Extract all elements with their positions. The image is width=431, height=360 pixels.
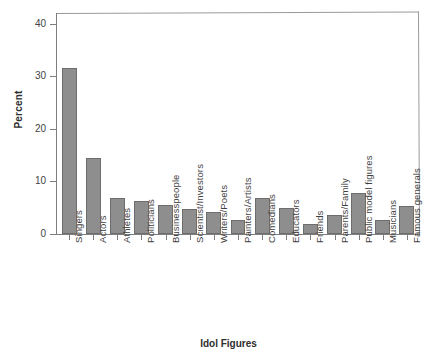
y-tick-20: 20 [50,129,56,130]
x-tick [310,235,311,240]
x-tick [359,235,360,240]
x-tick [117,235,118,240]
x-tick [190,235,191,240]
y-tick-0: 0 [50,234,56,235]
x-tick [238,235,239,240]
x-tick-label-musicians: Musicians [387,200,398,243]
x-tick [214,235,215,240]
x-tick-label-parents-family: Parents/Family [339,178,350,243]
x-tick [93,235,94,240]
x-tick-label-educators: Educators [290,199,301,243]
x-tick [286,235,287,240]
x-tick [335,235,336,240]
x-tick-label-actors: Actors [97,215,108,243]
y-tick-label: 10 [35,175,46,186]
x-tick-label-athletes: Athletes [121,208,132,243]
y-tick-label: 0 [40,228,46,239]
y-axis-title: Percent [13,70,24,150]
x-tick [262,235,263,240]
x-tick-label-writers-poets: Writers/Poets [218,185,229,243]
x-axis-title: Idol Figures [0,338,431,349]
y-tick-label: 20 [35,123,46,134]
bar-chart-figure: Percent 010203040 SingersActorsAthletesP… [0,0,431,360]
y-tick-40: 40 [50,24,56,25]
y-tick-label: 40 [35,18,46,29]
y-tick-30: 30 [50,76,56,77]
x-tick-label-friends: Friends [314,211,325,243]
y-tick-label: 30 [35,70,46,81]
x-tick [407,235,408,240]
y-tick-10: 10 [50,181,56,182]
x-tick [141,235,142,240]
x-tick-label-scientist-investors: Scientist/Investors [194,164,205,243]
x-tick [383,235,384,240]
x-tick-label-businesspeople: Businesspeople [170,175,181,243]
x-tick-label-singers: Singers [73,210,84,243]
x-tick [69,235,70,240]
x-tick-label-public-model-figures: Public model figures [363,155,374,243]
x-tick-label-famous-generals: Famous generals [411,168,422,243]
x-tick-label-comedians: Comedians [266,194,277,243]
x-tick-label-politicians: Politicians [145,199,156,243]
x-tick [166,235,167,240]
x-tick-label-painters-artists: Painters/Artists [242,178,253,243]
